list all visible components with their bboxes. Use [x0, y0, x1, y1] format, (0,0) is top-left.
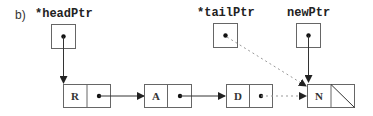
- tail-pointer-box: [214, 24, 307, 87]
- node-a-value: A: [152, 90, 160, 102]
- linked-list-diagram: R A D N: [0, 0, 373, 116]
- head-pointer-box: [52, 25, 76, 84]
- new-pointer-box: [297, 24, 321, 83]
- node-n: N: [308, 85, 355, 108]
- node-d: D: [227, 85, 307, 108]
- node-r: R: [64, 85, 145, 108]
- null-pointer-slash: [331, 85, 355, 108]
- node-r-value: R: [71, 90, 80, 102]
- node-n-value: N: [315, 90, 323, 102]
- node-d-value: D: [234, 90, 242, 102]
- node-a: A: [145, 85, 226, 108]
